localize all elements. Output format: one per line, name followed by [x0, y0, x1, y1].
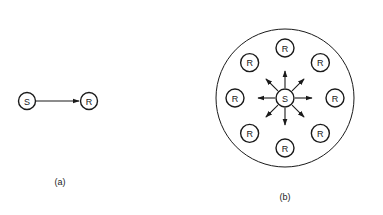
receiver-node-bottom-right: R — [311, 124, 329, 142]
receiver-label: R — [317, 129, 324, 139]
arrow-s-to-r-top-right — [292, 79, 304, 91]
caption-b: (b) — [280, 192, 291, 202]
source-node: S — [276, 89, 294, 107]
arrow-s-to-r-bottom-right — [292, 105, 304, 117]
receiver-label: R — [317, 58, 324, 68]
receiver-node-right: R — [326, 89, 344, 107]
figure-a: S R (a) — [19, 93, 98, 188]
arrow-s-to-r-bottom-left — [266, 105, 278, 117]
receiver-node-top-right: R — [311, 54, 329, 72]
source-label: S — [282, 94, 288, 104]
receiver-label: R — [86, 97, 93, 107]
receiver-label: R — [332, 94, 339, 104]
source-node: S — [19, 93, 36, 110]
arrow-s-to-r-top-left — [266, 79, 278, 91]
receiver-node-top: R — [276, 39, 294, 57]
receiver-node-bottom: R — [276, 139, 294, 157]
receiver-label: R — [246, 58, 253, 68]
receiver-node-left: R — [226, 89, 244, 107]
receiver-label: R — [232, 94, 239, 104]
receiver-node-bottom-left: R — [241, 124, 259, 142]
receiver-label: R — [282, 144, 289, 154]
caption-a: (a) — [55, 177, 66, 187]
receiver-node-top-left: R — [241, 54, 259, 72]
figure-b: RRRRRRRR S (b) — [216, 29, 354, 202]
receiver-label: R — [282, 44, 289, 54]
receiver-label: R — [246, 129, 253, 139]
source-label: S — [24, 97, 30, 107]
diagram-canvas: S R (a) RRRRRRRR S (b) — [0, 0, 383, 215]
receiver-node: R — [81, 93, 98, 110]
